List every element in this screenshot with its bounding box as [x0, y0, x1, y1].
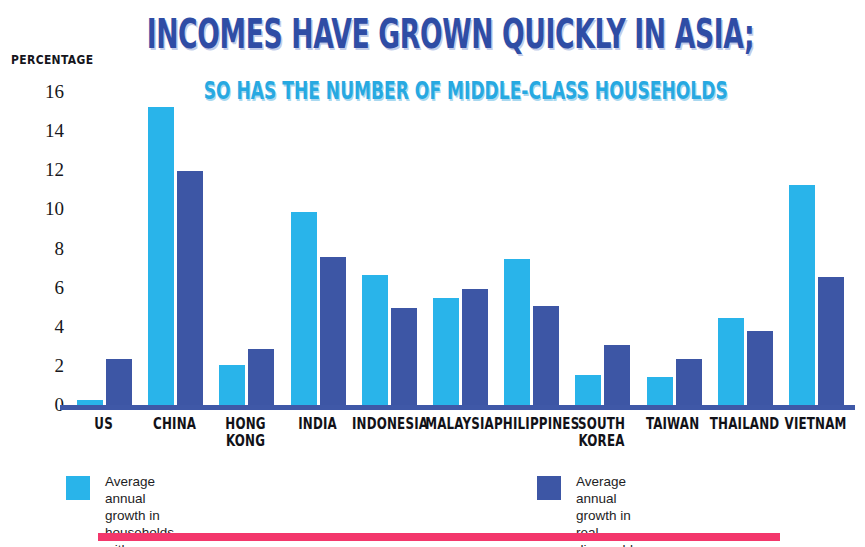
- x-axis-label-us: US: [67, 416, 140, 433]
- legend-swatch-income-growth: [537, 476, 561, 500]
- y-axis-tick-10: 10: [14, 198, 64, 220]
- bar-thailand-households: [718, 318, 744, 406]
- chart-title: INCOMES HAVE GROWN QUICKLY IN ASIA;: [130, 14, 770, 54]
- bar-malaysia-income: [462, 289, 488, 406]
- footer-accent-bar: [98, 533, 780, 541]
- y-axis-tick-0: 0: [14, 394, 64, 416]
- y-axis-tick-8: 8: [14, 238, 64, 260]
- bar-philippines-income: [533, 306, 559, 406]
- y-axis-tick-14: 14: [14, 120, 64, 142]
- bar-hong-kong-households: [219, 365, 245, 406]
- bar-taiwan-income: [676, 359, 702, 406]
- legend-swatch-households-growth: [66, 476, 90, 500]
- infographic-chart: INCOMES HAVE GROWN QUICKLY IN ASIA; SO H…: [0, 0, 865, 547]
- x-axis-label-malaysia: MALAYSIA: [423, 416, 496, 433]
- plot-area: [68, 88, 851, 406]
- bar-vietnam-households: [789, 185, 815, 406]
- x-axis-label-philippines: PHILIPPINES: [494, 416, 567, 433]
- y-axis-tick-2: 2: [14, 355, 64, 377]
- x-axis-label-south-korea: SOUTH KOREA: [565, 416, 638, 450]
- bar-us-income: [106, 359, 132, 406]
- x-axis-label-thailand: THAILAND: [708, 416, 781, 433]
- y-axis-tick-12: 12: [14, 159, 64, 181]
- x-axis-label-indonesia: INDONESIA: [352, 416, 425, 433]
- bar-indonesia-income: [391, 308, 417, 406]
- bar-china-income: [177, 171, 203, 406]
- x-axis-label-vietnam: VIETNAM: [779, 416, 852, 433]
- x-axis-label-india: INDIA: [281, 416, 354, 433]
- bar-south-korea-income: [604, 345, 630, 406]
- bar-china-households: [148, 107, 174, 406]
- bar-philippines-households: [504, 259, 530, 406]
- bar-vietnam-income: [818, 277, 844, 406]
- x-axis-baseline: [60, 405, 855, 410]
- bar-indonesia-households: [362, 275, 388, 406]
- bar-hong-kong-income: [248, 349, 274, 406]
- bar-malaysia-households: [433, 298, 459, 406]
- x-axis-label-hong-kong: HONG KONG: [209, 416, 282, 450]
- bar-taiwan-households: [647, 377, 673, 406]
- bar-india-income: [320, 257, 346, 406]
- x-axis-label-taiwan: TAIWAN: [636, 416, 709, 433]
- bar-india-households: [291, 212, 317, 406]
- y-axis-tick-6: 6: [14, 277, 64, 299]
- y-axis-tick-4: 4: [14, 316, 64, 338]
- x-axis-label-china: CHINA: [138, 416, 211, 433]
- y-axis-title: PERCENTAGE: [11, 52, 93, 67]
- bar-south-korea-households: [575, 375, 601, 406]
- y-axis-tick-16: 16: [14, 81, 64, 103]
- bar-thailand-income: [747, 331, 773, 406]
